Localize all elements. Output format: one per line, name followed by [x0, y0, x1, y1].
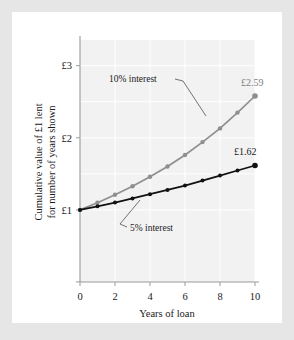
- annotation-5-percent: 5% interest: [130, 223, 173, 233]
- x-tick-label-6: 6: [182, 291, 187, 302]
- compound-interest-line-chart: £1 £2 £3 0 2 4 6 8 10 Years of loan Cumu…: [12, 12, 282, 323]
- x-tick-label-4: 4: [147, 291, 153, 302]
- y-tick-label-1: £1: [62, 205, 73, 216]
- y-axis-title-line1: Cumulative value of £1 lent: [33, 103, 44, 220]
- x-tick-label-10: 10: [250, 291, 261, 302]
- x-tick-label-8: 8: [217, 291, 222, 302]
- endpoint-label-10-percent: £2.59: [241, 77, 264, 88]
- plot-area-background: [80, 40, 255, 282]
- y-axis-title-line2: for number of years shown: [46, 105, 57, 219]
- y-axis-tick-marks: [76, 66, 80, 282]
- x-tick-label-0: 0: [77, 291, 82, 302]
- endpoint-label-5-percent: £1.62: [234, 146, 257, 157]
- annotation-10-percent: 10% interest: [109, 74, 157, 84]
- x-tick-label-2: 2: [112, 291, 117, 302]
- y-tick-label-3: £3: [62, 60, 73, 71]
- y-tick-label-2: £2: [62, 133, 73, 144]
- figure-white-panel: £1 £2 £3 0 2 4 6 8 10 Years of loan Cumu…: [12, 12, 282, 323]
- x-axis-title: Years of loan: [139, 308, 195, 319]
- x-axis-tick-marks: [80, 282, 255, 286]
- figure-outer-frame: £1 £2 £3 0 2 4 6 8 10 Years of loan Cumu…: [0, 0, 294, 340]
